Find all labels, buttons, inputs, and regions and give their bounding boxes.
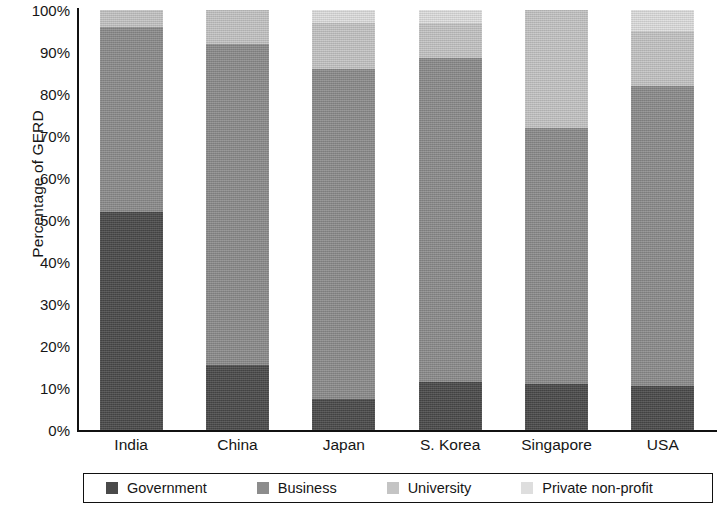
bar-stack	[206, 10, 269, 430]
bar-segment-private-non-profit[interactable]	[419, 10, 482, 23]
stacked-bar-chart: Percentage of GERD 100%90%80%70%60%50%40…	[0, 0, 724, 510]
bar-stack	[525, 10, 588, 430]
x-axis-tick-label: S. Korea	[397, 436, 503, 462]
bar-segment-university[interactable]	[312, 23, 375, 69]
x-axis-tick-label: India	[78, 436, 184, 462]
bar-group-s-korea[interactable]	[397, 10, 503, 430]
bar-segment-government[interactable]	[206, 365, 269, 430]
y-axis-tick-label: 10%	[2, 380, 70, 397]
chart-legend: GovernmentBusinessUniversityPrivate non-…	[83, 473, 713, 503]
y-axis-tick-label: 40%	[2, 254, 70, 271]
bar-segment-university[interactable]	[525, 10, 588, 128]
bar-segment-government[interactable]	[525, 384, 588, 430]
bar-segment-government[interactable]	[312, 399, 375, 431]
bar-segment-university[interactable]	[419, 23, 482, 59]
x-axis-tick-label: Japan	[291, 436, 397, 462]
bar-stack	[631, 10, 694, 430]
y-axis-tick-label: 50%	[2, 212, 70, 229]
legend-item-university[interactable]: University	[387, 480, 472, 496]
bar-group-india[interactable]	[78, 10, 184, 430]
bar-group-usa[interactable]	[610, 10, 716, 430]
bar-segment-business[interactable]	[100, 27, 163, 212]
y-axis-tick-label: 70%	[2, 128, 70, 145]
bar-group-china[interactable]	[184, 10, 290, 430]
legend-label: University	[408, 480, 472, 496]
bar-segment-business[interactable]	[312, 69, 375, 399]
y-axis-tick-label: 30%	[2, 296, 70, 313]
bar-stack	[100, 10, 163, 430]
bar-segment-private-non-profit[interactable]	[312, 10, 375, 23]
legend-swatch-icon	[521, 482, 533, 494]
x-axis-line	[77, 430, 717, 432]
bar-segment-government[interactable]	[631, 386, 694, 430]
bar-segment-business[interactable]	[525, 128, 588, 384]
y-axis-tick-label: 100%	[2, 2, 70, 19]
y-axis-tick-label: 0%	[2, 422, 70, 439]
legend-item-government[interactable]: Government	[106, 480, 207, 496]
bar-group-singapore[interactable]	[503, 10, 609, 430]
legend-label: Government	[127, 480, 207, 496]
x-axis-tick-label: China	[184, 436, 290, 462]
legend-item-business[interactable]: Business	[257, 480, 337, 496]
legend-label: Private non-profit	[542, 480, 652, 496]
legend-label: Business	[278, 480, 337, 496]
bar-group-japan[interactable]	[291, 10, 397, 430]
bar-segment-university[interactable]	[206, 10, 269, 44]
legend-swatch-icon	[387, 482, 399, 494]
bar-segment-private-non-profit[interactable]	[631, 10, 694, 31]
x-axis-tick-label: USA	[610, 436, 716, 462]
x-axis-tick-label: Singapore	[503, 436, 609, 462]
bar-segment-government[interactable]	[100, 212, 163, 430]
bar-stack	[312, 10, 375, 430]
y-axis-tick-label: 20%	[2, 338, 70, 355]
legend-swatch-icon	[257, 482, 269, 494]
bar-segment-business[interactable]	[419, 58, 482, 381]
bar-segment-business[interactable]	[206, 44, 269, 365]
bar-segment-university[interactable]	[631, 31, 694, 86]
x-axis-tick-labels: IndiaChinaJapanS. KoreaSingaporeUSA	[78, 436, 716, 462]
y-axis-tick-label: 90%	[2, 44, 70, 61]
y-axis-tick-label: 80%	[2, 86, 70, 103]
legend-item-private-non-profit[interactable]: Private non-profit	[521, 480, 652, 496]
legend-swatch-icon	[106, 482, 118, 494]
y-axis-tick-label: 60%	[2, 170, 70, 187]
bars-container	[78, 10, 716, 430]
bar-segment-government[interactable]	[419, 382, 482, 430]
bar-stack	[419, 10, 482, 430]
bar-segment-university[interactable]	[100, 10, 163, 27]
bar-segment-business[interactable]	[631, 86, 694, 386]
